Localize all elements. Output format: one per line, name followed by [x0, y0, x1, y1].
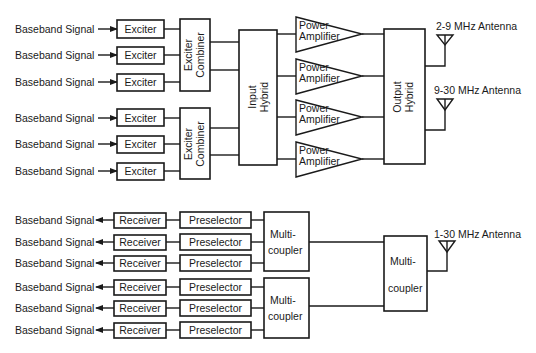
- exciter-4: Exciter: [117, 109, 164, 126]
- main-multicoupler-label-line2: coupler: [388, 282, 423, 294]
- exciter-label: Exciter: [124, 23, 157, 35]
- antenna-label: 9-30 MHz Antenna: [434, 84, 521, 96]
- preselector-label: Preselector: [189, 324, 243, 336]
- input-hybrid-label-line1: Input: [246, 85, 258, 108]
- receiver-label: Receiver: [119, 302, 161, 314]
- power-amplifier-1: Power Amplifier: [296, 17, 362, 52]
- exciter-3: Exciter: [117, 74, 164, 91]
- exciter-label: Exciter: [124, 165, 157, 177]
- power-amplifier-3: Power Amplifier: [296, 100, 362, 135]
- baseband-output-label-6: Baseband Signal: [15, 324, 94, 336]
- pa-label-line2: Amplifier: [299, 113, 340, 125]
- hf-radio-block-diagram: Baseband Signal Baseband Signal Baseband…: [0, 0, 536, 353]
- receiver-label: Receiver: [119, 236, 161, 248]
- output-hybrid: Output Hybrid: [384, 29, 425, 164]
- combiner-label-line1: Exciter: [182, 38, 194, 71]
- preselector-6: Preselector: [180, 322, 251, 338]
- preselector-label: Preselector: [189, 214, 243, 226]
- pa-label-line2: Amplifier: [299, 155, 340, 167]
- receiver-label: Receiver: [119, 281, 161, 293]
- exciter-label: Exciter: [124, 138, 157, 150]
- receiver-label: Receiver: [119, 257, 161, 269]
- baseband-output-label-2: Baseband Signal: [15, 236, 94, 248]
- exciter-2: Exciter: [117, 47, 164, 64]
- main-multicoupler-label-line1: Multi-: [390, 255, 416, 267]
- combiner-label-line2: Combiner: [194, 32, 206, 78]
- receiver-6: Receiver: [114, 323, 166, 338]
- exciter-combiner-2: Exciter Combiner: [180, 108, 210, 179]
- baseband-input-label-4: Baseband Signal: [15, 112, 94, 124]
- baseband-input-label-6: Baseband Signal: [15, 165, 94, 177]
- output-hybrid-label-line2: Hybrid: [403, 82, 415, 113]
- multicoupler-label-line2: coupler: [268, 244, 303, 256]
- main-multicoupler: Multi- coupler: [384, 236, 427, 311]
- power-amplifier-2: Power Amplifier: [296, 59, 362, 94]
- preselector-label: Preselector: [189, 257, 243, 269]
- baseband-input-label-2: Baseband Signal: [15, 49, 94, 61]
- preselector-1: Preselector: [180, 212, 251, 228]
- exciter-5: Exciter: [117, 136, 164, 153]
- antenna-label: 2-9 MHz Antenna: [436, 20, 517, 32]
- receiver-1: Receiver: [114, 213, 166, 228]
- combiner-label-line1: Exciter: [182, 127, 194, 160]
- baseband-output-label-1: Baseband Signal: [15, 214, 94, 226]
- preselector-label: Preselector: [189, 236, 243, 248]
- input-hybrid-label-line2: Hybrid: [258, 82, 270, 113]
- baseband-input-label-3: Baseband Signal: [15, 76, 94, 88]
- receiver-3: Receiver: [114, 256, 166, 271]
- power-amplifier-4: Power Amplifier: [296, 142, 362, 177]
- preselector-label: Preselector: [189, 281, 243, 293]
- baseband-output-label-3: Baseband Signal: [15, 257, 94, 269]
- preselector-5: Preselector: [180, 300, 251, 316]
- preselector-2: Preselector: [180, 234, 251, 250]
- baseband-input-label-5: Baseband Signal: [15, 138, 94, 150]
- exciter-label: Exciter: [124, 76, 157, 88]
- multicoupler-label-line1: Multi-: [270, 228, 296, 240]
- combiner-label-line2: Combiner: [194, 121, 206, 167]
- antenna-1-30mhz: 1-30 MHz Antenna: [427, 228, 521, 271]
- preselector-label: Preselector: [189, 302, 243, 314]
- output-hybrid-label-line1: Output: [391, 81, 403, 113]
- antenna-2-9mhz: 2-9 MHz Antenna: [425, 20, 517, 66]
- antenna-label: 1-30 MHz Antenna: [434, 228, 521, 240]
- receiver-4: Receiver: [114, 280, 166, 295]
- multicoupler-label-line1: Multi-: [270, 294, 296, 306]
- receiver-label: Receiver: [119, 214, 161, 226]
- receiver-label: Receiver: [119, 324, 161, 336]
- receiver-2: Receiver: [114, 235, 166, 250]
- input-arrows: [98, 29, 117, 171]
- output-arrows: [96, 220, 114, 330]
- exciter-1: Exciter: [117, 20, 164, 38]
- exciter-combiner-1: Exciter Combiner: [180, 19, 210, 91]
- input-hybrid: Input Hybrid: [239, 30, 277, 165]
- pa-label-line2: Amplifier: [299, 72, 340, 84]
- exciter-6: Exciter: [117, 163, 164, 180]
- multicoupler-1: Multi- coupler: [264, 212, 309, 271]
- antenna-9-30mhz: 9-30 MHz Antenna: [425, 84, 521, 130]
- receiver-5: Receiver: [114, 301, 166, 316]
- exciter-label: Exciter: [124, 112, 157, 124]
- preselector-3: Preselector: [180, 255, 251, 271]
- baseband-output-label-4: Baseband Signal: [15, 281, 94, 293]
- baseband-input-label-1: Baseband Signal: [15, 23, 94, 35]
- receive-section: Baseband Signal Baseband Signal Baseband…: [15, 212, 521, 338]
- baseband-output-label-5: Baseband Signal: [15, 302, 94, 314]
- exciter-label: Exciter: [124, 49, 157, 61]
- multicoupler-2: Multi- coupler: [264, 278, 309, 338]
- multicoupler-label-line2: coupler: [268, 310, 303, 322]
- preselector-4: Preselector: [180, 279, 251, 295]
- pa-label-line2: Amplifier: [299, 30, 340, 42]
- transmit-section: Baseband Signal Baseband Signal Baseband…: [15, 17, 521, 180]
